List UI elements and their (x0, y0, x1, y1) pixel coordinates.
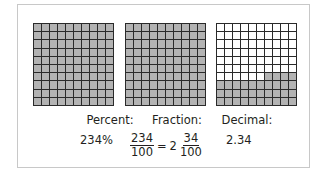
grid-cell (66, 40, 73, 47)
grid-cell (126, 32, 133, 39)
grid-cell (58, 81, 65, 88)
grid-cell (265, 73, 272, 80)
grid-cell (158, 32, 165, 39)
grid-cell (174, 57, 181, 64)
grid-cell (90, 57, 97, 64)
grid-cell (82, 32, 89, 39)
grid-cell (241, 81, 248, 88)
grid-cell (150, 57, 157, 64)
grid-cell (58, 40, 65, 47)
grid-cell (150, 73, 157, 80)
grid-cell (90, 73, 97, 80)
grid-cell (82, 73, 89, 80)
grid-cell (134, 57, 141, 64)
grid-cell (289, 40, 296, 47)
grid-cell (289, 81, 296, 88)
grid-cell (190, 49, 197, 56)
grid-cell (66, 90, 73, 97)
grid-cell (225, 32, 232, 39)
grid-cell (106, 57, 113, 64)
grid-percent (33, 23, 114, 106)
grid-cell (50, 49, 57, 56)
grid-cell (142, 24, 149, 31)
grid-cell (265, 65, 272, 72)
grid-cell (225, 98, 232, 105)
grid-cell (217, 40, 224, 47)
decimal-label: Decimal: (202, 113, 292, 127)
grid-cell (142, 73, 149, 80)
grid-cell (198, 90, 205, 97)
decimal-value: 2.34 (226, 133, 252, 147)
grid-cell (126, 57, 133, 64)
grid-cell (150, 81, 157, 88)
grid-cell (142, 81, 149, 88)
grid-cell (166, 40, 173, 47)
grid-cell (225, 57, 232, 64)
grid-cell (273, 98, 280, 105)
grid-cell (166, 49, 173, 56)
grid-cell (265, 81, 272, 88)
grid-cell (233, 57, 240, 64)
grid-cell (34, 90, 41, 97)
grid-cell (98, 65, 105, 72)
grid-cell (158, 65, 165, 72)
improper-fraction: 234 100 (130, 133, 154, 158)
grid-cell (273, 65, 280, 72)
grid-cell (225, 73, 232, 80)
grid-cell (42, 81, 49, 88)
grid-cell (233, 49, 240, 56)
grid-cell (134, 65, 141, 72)
grid-cell (257, 49, 264, 56)
grid-fraction (125, 23, 206, 106)
grid-cell (174, 24, 181, 31)
grid-cell (273, 57, 280, 64)
grid-cell (273, 49, 280, 56)
grid-cell (190, 32, 197, 39)
grid-cell (66, 98, 73, 105)
grid-cell (150, 32, 157, 39)
grid-cell (233, 24, 240, 31)
grid-cell (142, 65, 149, 72)
grid-cell (249, 81, 256, 88)
grid-cell (241, 57, 248, 64)
grid-cell (289, 98, 296, 105)
grid-cell (241, 24, 248, 31)
grid-cell (42, 49, 49, 56)
grid-cell (82, 49, 89, 56)
grid-cell (58, 32, 65, 39)
grid-cell (158, 81, 165, 88)
grid-cell (106, 49, 113, 56)
grid-cell (126, 24, 133, 31)
grid-cell (190, 24, 197, 31)
grid-cell (174, 49, 181, 56)
grid-cell (158, 40, 165, 47)
grid-cell (42, 65, 49, 72)
grid-cell (249, 73, 256, 80)
grid-cell (34, 73, 41, 80)
grid-cell (217, 73, 224, 80)
grid-cell (233, 98, 240, 105)
grid-cell (50, 40, 57, 47)
grid-cell (50, 90, 57, 97)
grid-cell (158, 90, 165, 97)
grid-cell (198, 24, 205, 31)
grid-cell (174, 32, 181, 39)
grid-cell (34, 32, 41, 39)
grid-cell (182, 81, 189, 88)
grid-cell (217, 49, 224, 56)
grid-cell (281, 32, 288, 39)
grid-cell (134, 24, 141, 31)
grid-cell (106, 73, 113, 80)
grid-cell (182, 98, 189, 105)
grid-cell (98, 73, 105, 80)
grid-cell (66, 57, 73, 64)
grid-cell (273, 32, 280, 39)
grid-cell (134, 90, 141, 97)
grid-cell (249, 98, 256, 105)
grid-cell (233, 40, 240, 47)
grid-cell (90, 24, 97, 31)
grid-cell (98, 81, 105, 88)
grid-cell (74, 73, 81, 80)
grid-cell (50, 24, 57, 31)
grid-cell (281, 98, 288, 105)
